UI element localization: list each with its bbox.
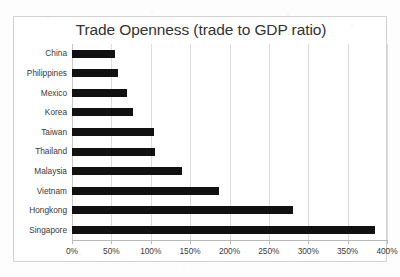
- x-tick-label-150%: 150%: [170, 246, 210, 256]
- y-axis-label-singapore: Singapore: [11, 226, 67, 235]
- x-tick-label-400%: 400%: [367, 246, 400, 256]
- bar-row: [72, 103, 387, 123]
- y-axis-category-labels: ChinaPhilippinesMexicoKoreaTaiwanThailan…: [14, 44, 70, 240]
- x-tick-300%: [308, 240, 309, 244]
- y-axis-label-mexico: Mexico: [11, 89, 67, 98]
- x-tick-label-0%: 0%: [52, 246, 92, 256]
- bar-row: [72, 83, 387, 103]
- y-axis-label-vietnam: Vietnam: [11, 187, 67, 196]
- x-tick-label-50%: 50%: [91, 246, 131, 256]
- y-axis-label-taiwan: Taiwan: [11, 128, 67, 137]
- bar-hongkong: [72, 206, 293, 214]
- x-tick-label-350%: 350%: [328, 246, 368, 256]
- x-tick-label-300%: 300%: [288, 246, 328, 256]
- y-axis-label-thailand: Thailand: [11, 147, 67, 156]
- bar-row: [72, 220, 387, 240]
- bar-korea: [72, 108, 133, 116]
- x-tick-150%: [190, 240, 191, 244]
- x-tick-400%: [387, 240, 388, 244]
- y-axis-label-korea: Korea: [11, 108, 67, 117]
- chart-title: Trade Openness (trade to GDP ratio): [14, 21, 388, 39]
- bar-malaysia: [72, 167, 182, 175]
- x-tick-label-100%: 100%: [131, 246, 171, 256]
- plot-area: [72, 44, 387, 240]
- y-axis-label-malaysia: Malaysia: [11, 167, 67, 176]
- bar-row: [72, 64, 387, 84]
- x-tick-200%: [230, 240, 231, 244]
- bar-row: [72, 142, 387, 162]
- gridline-400%: [387, 44, 388, 240]
- bar-china: [72, 50, 115, 58]
- bar-thailand: [72, 148, 155, 156]
- bar-row: [72, 181, 387, 201]
- bar-vietnam: [72, 187, 219, 195]
- x-tick-100%: [151, 240, 152, 244]
- bar-taiwan: [72, 128, 154, 136]
- bar-series: [72, 44, 387, 240]
- bar-philippines: [72, 69, 118, 77]
- x-tick-50%: [111, 240, 112, 244]
- bar-mexico: [72, 89, 127, 97]
- bar-row: [72, 201, 387, 221]
- x-tick-0%: [72, 240, 73, 244]
- x-tick-250%: [269, 240, 270, 244]
- y-axis-label-china: China: [11, 49, 67, 58]
- chart-frame: Trade Openness (trade to GDP ratio) Chin…: [13, 16, 387, 262]
- x-tick-label-250%: 250%: [249, 246, 289, 256]
- x-tick-350%: [348, 240, 349, 244]
- x-tick-label-200%: 200%: [210, 246, 250, 256]
- bar-row: [72, 122, 387, 142]
- bar-singapore: [72, 226, 375, 234]
- bar-row: [72, 162, 387, 182]
- y-axis-label-hongkong: Hongkong: [11, 206, 67, 215]
- bar-row: [72, 44, 387, 64]
- y-axis-label-philippines: Philippines: [11, 69, 67, 78]
